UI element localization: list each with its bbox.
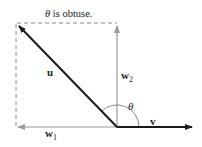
w1-label: w1 xyxy=(45,127,57,142)
v-label: v xyxy=(150,115,156,127)
u-label: u xyxy=(47,66,53,78)
vector-projection-diagram: θ is obtuse. u v w1 w2 θ xyxy=(0,0,202,147)
diagram-title: θ is obtuse. xyxy=(45,8,92,19)
u-vector xyxy=(19,26,117,127)
w2-label: w2 xyxy=(121,69,133,84)
theta-label: θ xyxy=(128,100,134,112)
